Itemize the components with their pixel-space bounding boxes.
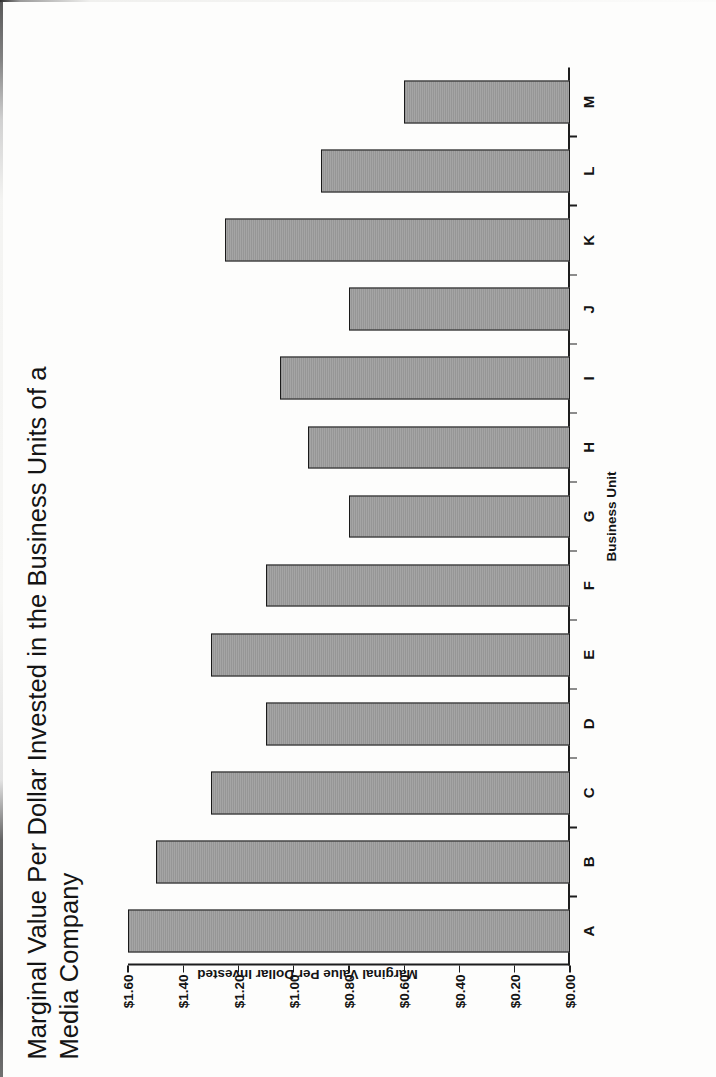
x-axis-category-label: D (580, 718, 597, 729)
x-axis-category-label: I (580, 376, 597, 380)
x-axis-category-label: A (580, 925, 597, 936)
y-axis-tick (569, 965, 570, 972)
x-axis-tick (570, 550, 577, 551)
x-axis-tick (570, 757, 577, 758)
bar-j (349, 287, 570, 330)
bar-l (321, 149, 570, 192)
plot-area: $0.00$0.20$0.40$0.60$0.80$1.00$1.20$1.40… (128, 67, 570, 965)
x-axis-tick (570, 343, 577, 344)
bar-i (280, 356, 570, 399)
x-axis-tick (570, 688, 577, 689)
x-axis-category-label: G (580, 510, 597, 522)
x-axis-category-label: K (580, 234, 597, 245)
bar-b (156, 840, 570, 883)
x-axis-tick (570, 481, 577, 482)
x-axis-category-label: M (580, 95, 597, 108)
x-axis-tick (570, 895, 577, 896)
y-axis-title: Marginal Value Per Dollar Invested (87, 967, 529, 982)
x-axis-tick (570, 412, 577, 413)
x-axis-title: Business Unit (604, 67, 619, 965)
x-axis-category-label: F (580, 580, 597, 589)
rotated-chart-stage: Marginal Value Per Dollar Invested in th… (0, 0, 716, 1077)
bar-g (349, 495, 570, 538)
bar-k (225, 218, 570, 261)
x-axis-category-label: H (580, 442, 597, 453)
bar-m (404, 80, 570, 123)
x-axis-tick (570, 826, 577, 827)
x-axis-category-label: E (580, 649, 597, 659)
x-axis-category-label: J (580, 305, 597, 313)
x-axis-tick (570, 135, 577, 136)
y-axis-tick-label: $0.00 (563, 974, 578, 1008)
x-axis-tick (570, 274, 577, 275)
chart-title: Marginal Value Per Dollar Invested in th… (22, 159, 85, 1059)
x-axis-category-label: C (580, 787, 597, 798)
x-axis-tick (570, 204, 577, 205)
plot-canvas: $0.00$0.20$0.40$0.60$0.80$1.00$1.20$1.40… (128, 67, 570, 965)
bar-d (266, 702, 570, 745)
bar-e (211, 633, 570, 676)
bar-a (128, 909, 570, 952)
x-axis-tick (570, 619, 577, 620)
bar-f (266, 564, 570, 607)
bar-chart-figure: Marginal Value Per Dollar Invested in th… (0, 0, 716, 1077)
bar-h (308, 426, 570, 469)
x-axis-category-label: L (580, 166, 597, 175)
bar-c (211, 771, 570, 814)
x-axis-category-label: B (580, 856, 597, 867)
